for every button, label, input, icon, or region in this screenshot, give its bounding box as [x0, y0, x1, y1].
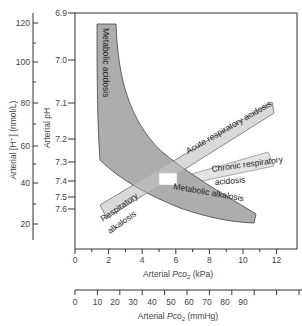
mmhg-tick-label: 80	[220, 297, 230, 307]
ph-tick-label: 7.2	[55, 134, 67, 144]
label-metabolic-acidosis: Metabolic acidosis	[101, 28, 111, 97]
ph-tick-label: 7.3	[55, 157, 67, 167]
mmhg-tick-label: 40	[147, 297, 157, 307]
kpa-tick-label: 6	[173, 255, 178, 265]
ph-tick-label: 7.1	[55, 98, 67, 108]
kpa-axis: 0 2 4 6 8 10 12 Arterial Pco2 (kPa)	[73, 249, 282, 280]
h-tick-label: 60	[21, 141, 31, 151]
acid-base-nomogram: 120 100 80 60 40 20 Arterial [H⁺] (nmol/…	[0, 0, 302, 326]
ph-tick-label: 7.6	[55, 204, 67, 214]
h-tick-label: 40	[21, 178, 31, 188]
mmhg-tick-label: 50	[166, 297, 176, 307]
kpa-tick-label: 8	[207, 255, 212, 265]
mmhg-axis: 0 10 20 30 40 50 60 70 80 90 Arterial Pc…	[73, 290, 302, 322]
h-tick-label: 100	[16, 57, 30, 67]
kpa-tick-label: 10	[238, 255, 248, 265]
kpa-tick-label: 12	[272, 255, 282, 265]
ph-tick-label: 7.0	[55, 55, 67, 65]
kpa-tick-label: 4	[140, 255, 145, 265]
h-ion-axis: 120 100 80 60 40 20 Arterial [H⁺] (nmol/…	[8, 13, 38, 240]
kpa-tick-label: 2	[106, 255, 111, 265]
kpa-tick-label: 0	[73, 255, 78, 265]
ph-tick-label: 7.4	[55, 176, 67, 186]
kpa-axis-title: Arterial Pco2 (kPa)	[143, 269, 213, 280]
mmhg-tick-label: 60	[184, 297, 194, 307]
h-tick-label: 80	[21, 98, 31, 108]
ph-tick-label: 6.9	[55, 8, 67, 18]
mmhg-tick-label: 0	[73, 297, 78, 307]
label-acute-respiratory-acidosis: Acute respiratory acidosis	[184, 98, 273, 155]
h-tick-label: 20	[21, 219, 31, 229]
h-tick-label: 120	[16, 18, 30, 28]
mmhg-tick-label: 10	[93, 297, 103, 307]
ph-axis: 6.9 7.0 7.1 7.2 7.3 7.4 7.5 7.6 Arterial…	[42, 8, 75, 214]
mmhg-tick-label: 90	[238, 297, 248, 307]
h-axis-title: Arterial [H⁺] (nmol/L)	[8, 100, 18, 179]
ph-tick-label: 7.5	[55, 192, 67, 202]
mmhg-tick-label: 30	[128, 297, 138, 307]
ph-axis-title: Arterial pH	[42, 108, 52, 148]
mmhg-tick-label: 20	[110, 297, 120, 307]
mmhg-axis-title: Arterial Pco2 (mmHg)	[138, 311, 219, 322]
mmhg-tick-label: 70	[202, 297, 212, 307]
label-chronic-respiratory-2: acidosis	[214, 174, 245, 187]
